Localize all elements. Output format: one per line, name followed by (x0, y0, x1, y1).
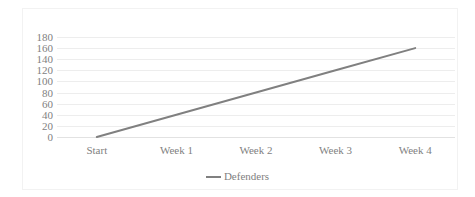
x-tick-label: Week 2 (239, 143, 272, 157)
y-tick-label: 20 (42, 120, 53, 131)
x-tick-label: Week 3 (319, 143, 352, 157)
x-axis: StartWeek 1Week 2Week 3Week 4 (57, 143, 455, 159)
y-tick-label: 40 (42, 109, 53, 120)
y-tick-label: 160 (37, 43, 54, 54)
y-tick-label: 60 (42, 98, 53, 109)
line-chart: 020406080100120140160180 StartWeek 1Week… (0, 0, 475, 197)
plot-area (57, 37, 455, 137)
y-axis: 020406080100120140160180 (22, 37, 55, 137)
y-tick-label: 180 (37, 32, 54, 43)
series-defenders (57, 37, 455, 137)
y-tick-label: 120 (37, 65, 54, 76)
gridline-0 (57, 137, 455, 138)
x-tick-label: Start (86, 143, 107, 157)
chart-legend: Defenders (0, 170, 475, 183)
y-tick-label: 0 (48, 132, 54, 143)
legend-item[interactable]: Defenders (206, 170, 269, 183)
legend-label: Defenders (224, 170, 269, 183)
series-line-defenders (97, 48, 415, 137)
y-tick-label: 100 (37, 76, 54, 87)
legend-line-icon (206, 176, 221, 178)
y-tick-label: 140 (37, 54, 54, 65)
y-tick-label: 80 (42, 87, 53, 98)
x-tick-label: Week 1 (160, 143, 193, 157)
x-tick-label: Week 4 (399, 143, 432, 157)
